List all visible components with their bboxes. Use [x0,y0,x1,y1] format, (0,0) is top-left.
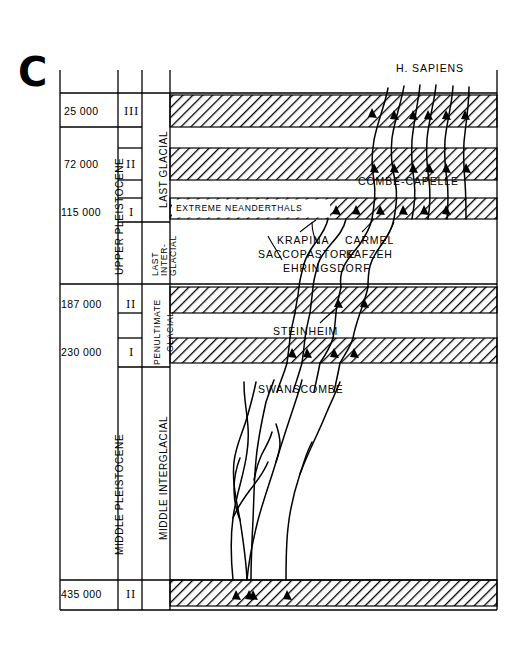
phylogeny-chart [0,0,526,647]
substage-numeral-III-1: III [124,105,139,118]
stage-label-penultimate: PENULTIMATE [152,299,162,365]
substage-numeral-I-2: I [129,346,134,359]
figure-root: C [0,0,526,647]
band-6-basal [170,580,497,606]
stage-label-interglacial: GLACIAL [168,235,178,276]
taxon-label-ehringsdorf: EHRINGSDORF [283,262,371,274]
taxon-label-carmel: CARMEL [345,234,394,246]
band-4 [170,287,497,313]
lineage-deep-4 [286,382,340,580]
taxon-label-saccopastore: SACCOPASTORE [258,248,355,260]
taxon-label-swanscombe: SWANSCOMBE [258,383,344,395]
lineage-deep-2 [233,382,256,580]
age-label-72000: 72 000 [64,158,99,170]
age-label-435000: 435 000 [61,588,102,600]
taxon-label-krapina: KRAPINA [277,234,329,246]
substage-numeral-I-1: I [129,206,134,219]
age-label-115000: 115 000 [61,206,101,218]
substage-numeral-II-2: II [126,298,136,311]
taxon-label-combe-capelle: COMBE-CAPELLE [358,175,459,187]
epoch-label-upper-pleistocene: UPPER PLEISTOCENE [114,158,125,275]
stage-label-penultimate-glacial: GLACIAL [165,311,175,352]
stage-label-last-glacial: LAST GLACIAL [158,131,169,208]
epoch-label-middle-pleistocene: MIDDLE PLEISTOCENE [114,434,125,555]
lineage-branch-2 [276,424,280,462]
taxon-label-h-sapiens: H. SAPIENS [396,62,464,74]
taxon-label-steinheim: STEINHEIM [273,325,338,337]
taxon-label-extreme-neanderthals: EXTREME NEANDERTHALS [176,203,302,213]
stage-label-middle-interglacial: MIDDLE INTERGLACIAL [158,416,169,540]
substage-numeral-II-3: II [126,588,136,601]
age-label-187000: 187 000 [61,298,102,310]
substage-numeral-II-1: II [126,158,136,171]
age-label-25000: 25 000 [64,105,99,117]
age-label-230000: 230 000 [61,346,102,358]
lineage-branch-3 [300,442,312,474]
taxon-label-kafzeh: KAFZEH [346,248,393,260]
